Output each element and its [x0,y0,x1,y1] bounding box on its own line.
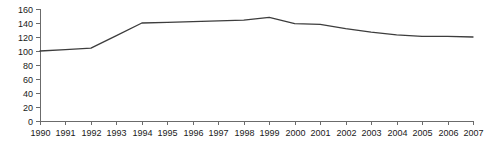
x-tick-label: 2003 [361,128,381,138]
x-tick-label: 2004 [387,128,407,138]
x-tick-label: 1997 [208,128,228,138]
x-tick-label: 1995 [157,128,177,138]
x-tick-label: 1990 [30,128,50,138]
x-tick-label: 1994 [132,128,152,138]
y-tick-label: 80 [23,61,33,71]
y-tick-label: 160 [18,5,33,15]
y-tick-label: 20 [23,103,33,113]
x-tick-label: 2000 [285,128,305,138]
x-tick-label: 1999 [259,128,279,138]
data-line-index [40,17,473,51]
x-tick-label: 1992 [81,128,101,138]
x-tick-label: 1996 [183,128,203,138]
data-series-group [40,17,473,51]
x-tick-label: 2005 [412,128,432,138]
y-tick-label: 100 [18,47,33,57]
y-tick-label: 60 [23,75,33,85]
y-tick-label: 40 [23,89,33,99]
x-tick-label: 1991 [55,128,75,138]
x-tick-label: 2001 [310,128,330,138]
x-tick-label: 2002 [336,128,356,138]
x-tick-label: 1993 [106,128,126,138]
x-tick-label: 2007 [463,128,483,138]
y-tick-label: 0 [28,117,33,127]
x-axis: 1990199119921993199419951996199719981999… [30,121,483,138]
x-tick-label: 2006 [438,128,458,138]
line-chart: 020406080100120140160 199019911992199319… [0,0,497,148]
y-axis: 020406080100120140160 [18,5,41,127]
x-tick-label: 1998 [234,128,254,138]
chart-canvas: 020406080100120140160 199019911992199319… [0,0,497,148]
y-tick-label: 120 [18,33,33,43]
y-tick-label: 140 [18,19,33,29]
